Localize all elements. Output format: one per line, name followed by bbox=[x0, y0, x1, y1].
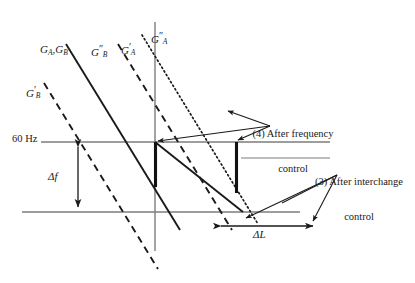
curve-label-ga-prime: G′A bbox=[110, 29, 135, 70]
operating-segment bbox=[155, 142, 243, 212]
curve-label-gb-double-prime: G″B bbox=[80, 31, 107, 72]
callout-frequency-control-line1: (4) After frequency bbox=[238, 128, 348, 140]
callout-interchange-control: (3) After interchange control bbox=[303, 152, 415, 246]
frequency-interchange-diagram: GA,GB G′B G″B G′A G″A 60 Hz Δf ΔL (4) Af… bbox=[0, 0, 415, 283]
frequency-axis-label: 60 Hz bbox=[12, 133, 37, 145]
callout-interchange-control-line1: (3) After interchange bbox=[303, 176, 415, 188]
callout-interchange-control-line2: control bbox=[303, 211, 415, 223]
delta-l-label: ΔL bbox=[253, 228, 266, 240]
delta-f-label: Δf bbox=[48, 170, 58, 182]
curve-label-ga-double-prime: G″A bbox=[140, 18, 167, 59]
curve-label-gb-prime: G′B bbox=[15, 72, 40, 113]
curve-gb-double-prime-ga-prime bbox=[118, 44, 232, 230]
curve-gb-prime bbox=[44, 83, 158, 269]
curve-label-ga-gb: GA,GB bbox=[29, 31, 68, 70]
